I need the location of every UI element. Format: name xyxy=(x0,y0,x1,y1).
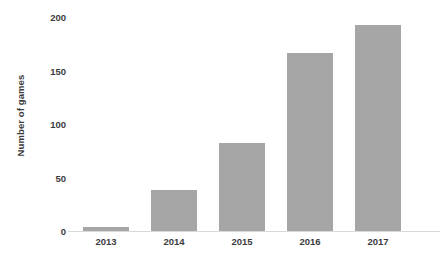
x-axis-tick-2015: 2015 xyxy=(208,236,276,247)
bar-2014[interactable] xyxy=(151,190,197,231)
bar-slot-2016 xyxy=(276,17,344,231)
y-axis-title: Number of games xyxy=(10,0,32,231)
bar-2016[interactable] xyxy=(287,53,333,231)
y-axis-tick-50: 50 xyxy=(30,172,66,183)
bar-2017[interactable] xyxy=(355,25,401,232)
x-axis-tick-2014: 2014 xyxy=(140,236,208,247)
x-axis-line xyxy=(68,231,440,232)
plot-area xyxy=(72,17,434,231)
bar-chart: Number of games 200150100500 20132014201… xyxy=(0,0,446,261)
bar-slot-2017 xyxy=(344,17,412,231)
y-axis-tick-100: 100 xyxy=(30,119,66,130)
y-axis-tick-150: 150 xyxy=(30,65,66,76)
bar-2015[interactable] xyxy=(219,143,265,231)
bar-slot-2013 xyxy=(72,17,140,231)
bar-slot-2015 xyxy=(208,17,276,231)
y-axis-tick-200: 200 xyxy=(30,12,66,23)
x-axis-tick-2017: 2017 xyxy=(344,236,412,247)
bar-slot-2014 xyxy=(140,17,208,231)
y-axis-tick-0: 0 xyxy=(30,226,66,237)
y-axis-title-label: Number of games xyxy=(16,75,27,157)
x-axis-tick-2016: 2016 xyxy=(276,236,344,247)
x-axis-tick-2013: 2013 xyxy=(72,236,140,247)
